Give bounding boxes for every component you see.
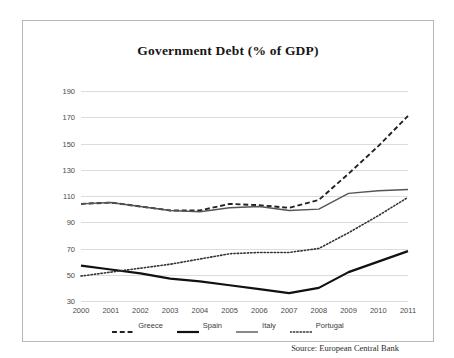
legend-swatch-italy-icon (236, 322, 258, 330)
x-tick-label: 2001 (102, 306, 119, 315)
y-tick-label: 190 (62, 87, 75, 96)
legend-item-greece[interactable]: Greece (112, 321, 163, 330)
gridline (81, 301, 408, 302)
legend-swatch-greece-icon (112, 322, 134, 330)
x-tick-label: 2005 (221, 306, 238, 315)
x-tick-label: 2004 (192, 306, 209, 315)
legend-item-portugal[interactable]: Portugal (290, 321, 344, 330)
y-tick-label: 170 (62, 113, 75, 122)
x-tick-label: 2009 (340, 306, 357, 315)
y-tick-label: 30 (67, 297, 75, 306)
legend-label: Spain (203, 321, 222, 330)
x-tick-label: 2010 (370, 306, 387, 315)
legend-item-italy[interactable]: Italy (236, 321, 276, 330)
x-tick-label: 2006 (251, 306, 268, 315)
x-tick-label: 2007 (281, 306, 298, 315)
legend-label: Portugal (316, 321, 344, 330)
x-tick-label: 2008 (310, 306, 327, 315)
series-lines (81, 91, 408, 301)
chart-legend: GreeceSpainItalyPortugal (23, 321, 433, 330)
y-tick-label: 70 (67, 244, 75, 253)
x-tick-label: 2002 (132, 306, 149, 315)
series-line-italy (81, 189, 408, 211)
y-tick-label: 130 (62, 165, 75, 174)
source-note: Source: European Central Bank (291, 343, 399, 353)
legend-swatch-spain-icon (177, 322, 199, 330)
x-tick-label: 2000 (73, 306, 90, 315)
legend-swatch-portugal-icon (290, 322, 312, 330)
series-line-spain (81, 251, 408, 293)
y-tick-label: 90 (67, 218, 75, 227)
legend-item-spain[interactable]: Spain (177, 321, 222, 330)
y-tick-label: 110 (63, 192, 75, 201)
series-line-portugal (81, 197, 408, 276)
x-tick-label: 2003 (162, 306, 179, 315)
chart-title: Government Debt (% of GDP) (23, 43, 433, 59)
chart-container: Government Debt (% of GDP) 1901701501301… (22, 20, 434, 342)
y-tick-label: 50 (67, 270, 75, 279)
series-line-greece (81, 116, 408, 211)
legend-label: Italy (262, 321, 276, 330)
y-tick-label: 150 (62, 139, 75, 148)
plot-area: 19017015013011090705030 2000200120022003… (81, 91, 408, 301)
legend-label: Greece (138, 321, 163, 330)
x-tick-label: 2011 (400, 306, 416, 315)
